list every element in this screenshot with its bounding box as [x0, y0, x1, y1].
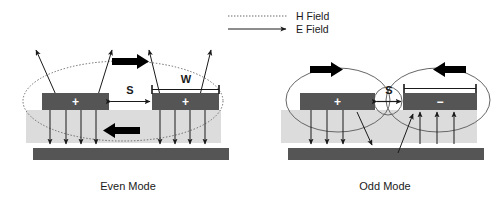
- strip-polarity-label: +: [72, 95, 79, 109]
- block-arrow-odd-right: [433, 62, 466, 77]
- e-field-arrow: [98, 50, 112, 95]
- panel-odd-mode: + − S Odd Mode: [281, 62, 490, 192]
- coupled-microstrip-figure: H Field E Field: [0, 0, 504, 205]
- panel-caption-odd-mode: Odd Mode: [359, 180, 410, 192]
- substrate-even: [26, 110, 221, 143]
- legend-item-e-field: E Field: [228, 23, 329, 35]
- legend-label-h-field: H Field: [296, 10, 329, 22]
- strip-even-left: +: [42, 93, 109, 110]
- strip-even-right: +: [152, 93, 219, 110]
- legend: H Field E Field: [228, 10, 329, 35]
- dimension-label-s: S: [385, 84, 392, 96]
- ground-plane-odd: [288, 148, 484, 160]
- dimension-s-even: S: [111, 84, 150, 102]
- panel-even-mode: + + S W Even Mode: [23, 50, 229, 192]
- e-field-arrow: [200, 50, 211, 95]
- strip-odd-right: −: [403, 93, 477, 110]
- dimension-w-even: W: [152, 73, 219, 90]
- legend-item-h-field: H Field: [228, 10, 329, 22]
- strip-polarity-label: +: [182, 95, 189, 109]
- e-field-arrow: [149, 50, 160, 95]
- dimension-label-w: W: [181, 73, 192, 85]
- panel-caption-even-mode: Even Mode: [100, 180, 156, 192]
- dimension-label-s: S: [126, 84, 133, 96]
- substrate-odd: [281, 110, 477, 143]
- legend-label-e-field: E Field: [296, 23, 329, 35]
- strip-polarity-label: +: [334, 95, 341, 109]
- block-arrow-odd-left: [310, 62, 343, 77]
- ground-plane-even: [33, 148, 229, 160]
- dimension-s-odd: S: [377, 84, 401, 102]
- block-arrow-even-upper: [112, 54, 149, 69]
- strip-odd-left: +: [300, 93, 375, 110]
- strip-polarity-label: −: [436, 95, 443, 109]
